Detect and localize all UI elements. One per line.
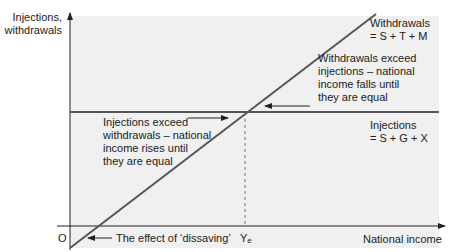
annotation-line: income rises until [103, 142, 211, 155]
ye-subscript: e [247, 236, 251, 245]
withdrawals-formula: = S + T + M [370, 30, 430, 43]
injections-label: Injections = S + G + X [370, 119, 428, 145]
annotation-line: income falls until [318, 78, 416, 91]
withdrawals-label: Withdrawals = S + T + M [370, 17, 430, 43]
origin-label: O [58, 232, 67, 245]
annotation-line: Withdrawals exceed [318, 52, 416, 65]
y-axis-label-line2: withdrawals [2, 24, 62, 37]
annotation-line: withdrawals – national [103, 129, 211, 142]
annotation-line: they are equal [318, 91, 416, 104]
injections-label-line1: Injections [370, 119, 428, 132]
annotation-line: they are equal [103, 155, 211, 168]
dissaving-annotation: The effect of ‘dissaving’ [116, 232, 231, 245]
y-axis-label-line1: Injections, [2, 11, 62, 24]
x-axis-label: National income [363, 233, 442, 246]
withdrawals-label-line1: Withdrawals [370, 17, 430, 30]
annotation-line: injections – national [318, 65, 416, 78]
withdrawals-exceed-annotation: Withdrawals exceed injections – national… [318, 52, 416, 104]
annotation-line: Injections exceed [103, 116, 211, 129]
injections-formula: = S + G + X [370, 132, 428, 145]
equilibrium-income-label: Ye [240, 232, 252, 247]
y-axis-label: Injections, withdrawals [2, 11, 62, 37]
injections-exceed-annotation: Injections exceed withdrawals – national… [103, 116, 211, 168]
